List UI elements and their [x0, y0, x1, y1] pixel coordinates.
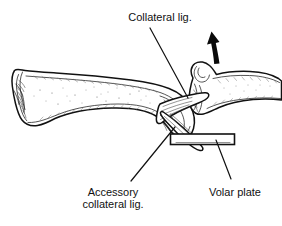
anatomy-figure: Collateral lig. Accessory collateral lig… — [0, 0, 282, 226]
volar-plate-leader — [216, 140, 231, 179]
middle-phalanx — [189, 62, 281, 114]
accessory-collateral-ligament-label-line2: collateral lig. — [82, 198, 143, 210]
displacement-arrow — [207, 32, 220, 65]
accessory-collateral-ligament-label-line1: Accessory — [88, 186, 139, 198]
anatomy-illustration: Collateral lig. Accessory collateral lig… — [0, 0, 282, 226]
accessory-collateral-lig-leader — [131, 127, 175, 181]
volar-plate-marker — [171, 134, 235, 145]
volar-plate-label: Volar plate — [209, 186, 261, 198]
collateral-ligament-label: Collateral lig. — [128, 11, 192, 23]
